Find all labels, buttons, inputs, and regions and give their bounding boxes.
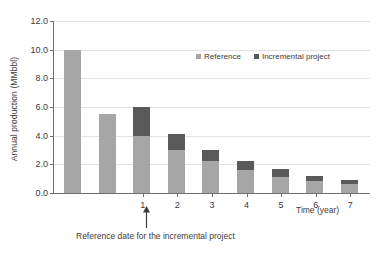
y-tick-label: 10.0	[30, 45, 48, 55]
y-tick-mark	[50, 193, 53, 194]
bar-group	[272, 169, 289, 193]
bar-segment-incremental	[237, 161, 254, 170]
x-tick-mark	[247, 194, 248, 197]
y-tick-label: 0.0	[35, 188, 48, 198]
legend-label: Reference	[204, 52, 241, 61]
up-arrow-icon	[142, 206, 151, 228]
y-tick-mark	[50, 107, 53, 108]
legend-swatch-icon	[254, 54, 259, 59]
legend-swatch-icon	[196, 54, 201, 59]
y-axis-title: Annual production (MMbbl)	[9, 34, 19, 184]
plot-area: 0.02.04.06.08.010.012.0 1234567	[53, 21, 370, 194]
bar-segment-reference	[133, 136, 150, 193]
bar-segment-reference	[64, 50, 81, 193]
bar-chart: Annual production (MMbbl) 0.02.04.06.08.…	[0, 0, 377, 255]
y-tick-label: 12.0	[30, 16, 48, 26]
y-tick-mark	[50, 78, 53, 79]
y-tick-label: 4.0	[35, 131, 48, 141]
y-tick-mark	[50, 21, 53, 22]
bar-series-container	[54, 21, 370, 193]
legend-item: Reference	[196, 52, 241, 61]
bar-segment-reference	[341, 184, 358, 193]
bar-segment-reference	[237, 170, 254, 193]
x-tick-label: 5	[266, 200, 296, 210]
bar-segment-reference	[272, 177, 289, 193]
x-tick-mark	[350, 194, 351, 197]
y-tick-mark	[50, 164, 53, 165]
y-tick-label: 8.0	[35, 73, 48, 83]
bar-segment-reference	[99, 114, 116, 193]
x-tick-mark	[316, 194, 317, 197]
x-tick-mark	[177, 194, 178, 197]
chart-legend: ReferenceIncremental project	[196, 52, 330, 61]
bar-group	[306, 176, 323, 193]
x-tick-label: 4	[232, 200, 262, 210]
bar-group	[202, 150, 219, 193]
x-tick-label: 3	[197, 200, 227, 210]
y-tick-label: 2.0	[35, 159, 48, 169]
bar-group	[133, 107, 150, 193]
bar-segment-incremental	[272, 169, 289, 176]
x-tick-mark	[281, 194, 282, 197]
bar-group	[341, 180, 358, 193]
annotation-caption: Reference date for the incremental proje…	[76, 231, 235, 241]
bar-group	[99, 114, 116, 193]
bar-segment-reference	[168, 150, 185, 193]
x-axis-title: Time (year)	[296, 205, 339, 215]
bar-segment-incremental	[168, 134, 185, 150]
legend-label: Incremental project	[262, 52, 330, 61]
bar-group	[237, 161, 254, 193]
y-tick-mark	[50, 50, 53, 51]
bar-group	[168, 134, 185, 193]
x-tick-label: 2	[162, 200, 192, 210]
x-tick-label: 7	[335, 200, 365, 210]
bar-segment-incremental	[133, 107, 150, 136]
bar-segment-incremental	[202, 150, 219, 161]
bar-segment-reference	[306, 181, 323, 193]
legend-item: Incremental project	[254, 52, 330, 61]
bar-segment-reference	[202, 161, 219, 193]
bar-group	[64, 50, 81, 193]
x-tick-mark	[143, 194, 144, 197]
x-tick-mark	[212, 194, 213, 197]
y-tick-label: 6.0	[35, 102, 48, 112]
y-tick-mark	[50, 136, 53, 137]
